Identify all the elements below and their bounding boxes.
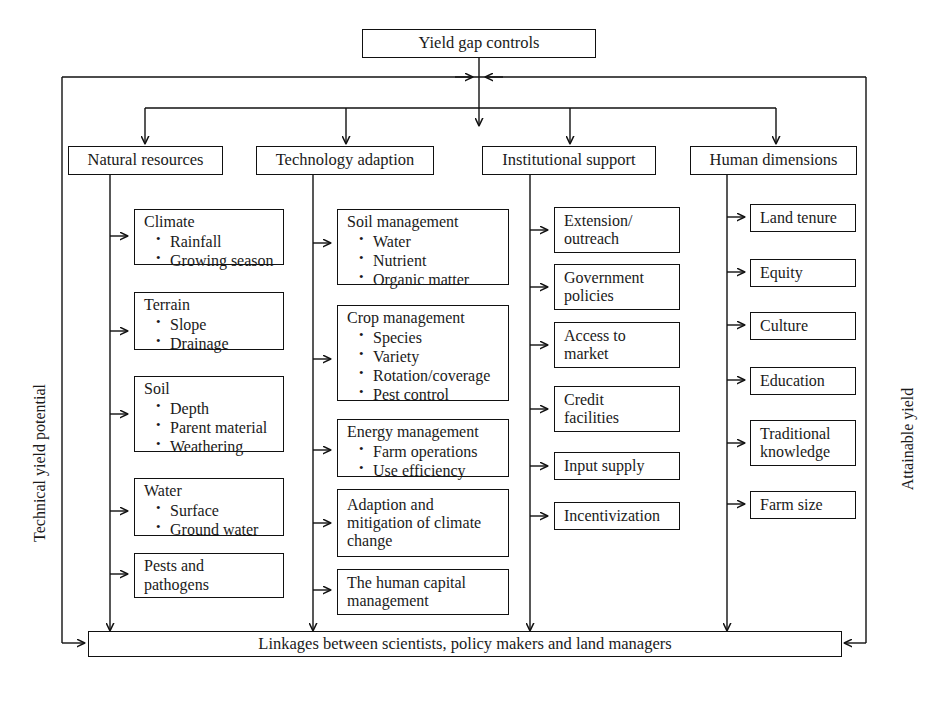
leaf-box-adaption-mitigation-climate-change[interactable]: Adaption and mitigation of climate chang… <box>337 489 509 557</box>
bullet-item: Organic matter <box>359 270 502 289</box>
leaf-heading: Energy management <box>347 423 502 442</box>
bullet-item: Parent material <box>156 418 277 437</box>
leaf-heading: Pests and pathogens <box>144 557 277 593</box>
category-box-human-dimensions[interactable]: Human dimensions <box>690 146 857 175</box>
leaf-heading: Access to market <box>564 327 673 363</box>
diagram-canvas: Yield gap controls Natural resources Tec… <box>0 0 928 705</box>
bullet-item: Use efficiency <box>359 461 502 480</box>
bullet-item: Variety <box>359 347 502 366</box>
leaf-box-soil-management[interactable]: Soil management Water Nutrient Organic m… <box>337 209 509 285</box>
leaf-box-energy-management[interactable]: Energy management Farm operations Use ef… <box>337 419 509 477</box>
leaf-box-climate[interactable]: Climate Rainfall Growing season <box>134 209 284 265</box>
bullet-item: Nutrient <box>359 251 502 270</box>
linkage-bar[interactable]: Linkages between scientists, policy make… <box>88 631 842 657</box>
leaf-box-education[interactable]: Education <box>750 367 856 395</box>
bullet-item: Farm operations <box>359 442 502 461</box>
bullet-item: Ground water <box>156 520 277 539</box>
leaf-box-input-supply[interactable]: Input supply <box>554 452 680 480</box>
leaf-bullets: Slope Drainage <box>144 315 277 353</box>
category-box-natural-resources[interactable]: Natural resources <box>68 146 223 175</box>
bullet-item: Depth <box>156 399 277 418</box>
leaf-heading: Soil <box>144 380 277 399</box>
side-label-left-text: Technical yield potential <box>31 384 48 542</box>
leaf-heading: Land tenure <box>760 209 849 227</box>
category-label: Human dimensions <box>700 151 848 170</box>
root-box[interactable]: Yield gap controls <box>362 29 596 58</box>
leaf-heading: Input supply <box>564 457 673 475</box>
category-label: Natural resources <box>78 151 214 170</box>
leaf-box-pests-and-pathogens[interactable]: Pests and pathogens <box>134 553 284 598</box>
leaf-heading: Extension/ outreach <box>564 212 673 248</box>
leaf-heading: The human capital management <box>347 574 502 610</box>
leaf-box-farm-size[interactable]: Farm size <box>750 491 856 519</box>
leaf-box-credit-facilities[interactable]: Credit facilities <box>554 386 680 432</box>
bullet-item: Drainage <box>156 334 277 353</box>
linkage-bar-label: Linkages between scientists, policy make… <box>258 635 671 654</box>
root-box-label: Yield gap controls <box>409 34 550 53</box>
bullet-item: Slope <box>156 315 277 334</box>
leaf-bullets: Species Variety Rotation/coverage Pest c… <box>347 328 502 405</box>
leaf-bullets: Rainfall Growing season <box>144 232 277 270</box>
bullet-item: Surface <box>156 501 277 520</box>
leaf-bullets: Water Nutrient Organic matter <box>347 232 502 290</box>
leaf-bullets: Depth Parent material Weathering <box>144 399 277 457</box>
leaf-box-extension-outreach[interactable]: Extension/ outreach <box>554 207 680 253</box>
leaf-heading: Incentivization <box>564 507 673 525</box>
leaf-heading: Adaption and mitigation of climate chang… <box>347 496 502 551</box>
category-label: Technology adaption <box>266 151 425 170</box>
side-label-attainable-yield: Attainable yield <box>899 364 917 514</box>
bullet-item: Growing season <box>156 251 277 270</box>
leaf-box-culture[interactable]: Culture <box>750 312 856 340</box>
leaf-bullets: Surface Ground water <box>144 501 277 539</box>
leaf-heading: Soil management <box>347 213 502 232</box>
bullet-item: Species <box>359 328 502 347</box>
bullet-item: Weathering <box>156 437 277 456</box>
bullet-item: Rotation/coverage <box>359 366 502 385</box>
leaf-box-human-capital-management[interactable]: The human capital management <box>337 569 509 615</box>
leaf-box-water[interactable]: Water Surface Ground water <box>134 478 284 536</box>
leaf-box-crop-management[interactable]: Crop management Species Variety Rotation… <box>337 305 509 401</box>
leaf-heading: Government policies <box>564 269 673 305</box>
category-box-institutional-support[interactable]: Institutional support <box>482 146 656 175</box>
leaf-box-soil[interactable]: Soil Depth Parent material Weathering <box>134 376 284 452</box>
leaf-heading: Traditional knowledge <box>760 425 849 461</box>
bullet-item: Rainfall <box>156 232 277 251</box>
leaf-heading: Water <box>144 482 277 501</box>
leaf-box-traditional-knowledge[interactable]: Traditional knowledge <box>750 420 856 466</box>
leaf-heading: Farm size <box>760 496 849 514</box>
bullet-item: Water <box>359 232 502 251</box>
leaf-box-terrain[interactable]: Terrain Slope Drainage <box>134 292 284 350</box>
side-label-technical-yield-potential: Technical yield potential <box>31 363 49 563</box>
leaf-heading: Equity <box>760 264 849 282</box>
leaf-heading: Credit facilities <box>564 391 673 427</box>
side-label-right-text: Attainable yield <box>899 388 916 491</box>
leaf-bullets: Farm operations Use efficiency <box>347 442 502 480</box>
category-box-technology-adaption[interactable]: Technology adaption <box>256 146 434 175</box>
leaf-heading: Education <box>760 372 849 390</box>
leaf-box-land-tenure[interactable]: Land tenure <box>750 204 856 232</box>
leaf-heading: Crop management <box>347 309 502 328</box>
leaf-heading: Terrain <box>144 296 277 315</box>
leaf-box-government-policies[interactable]: Government policies <box>554 264 680 310</box>
bullet-item: Pest control <box>359 385 502 404</box>
leaf-heading: Climate <box>144 213 277 232</box>
leaf-heading: Culture <box>760 317 849 335</box>
leaf-box-access-to-market[interactable]: Access to market <box>554 322 680 368</box>
category-label: Institutional support <box>492 151 645 170</box>
leaf-box-incentivization[interactable]: Incentivization <box>554 502 680 530</box>
leaf-box-equity[interactable]: Equity <box>750 259 856 287</box>
